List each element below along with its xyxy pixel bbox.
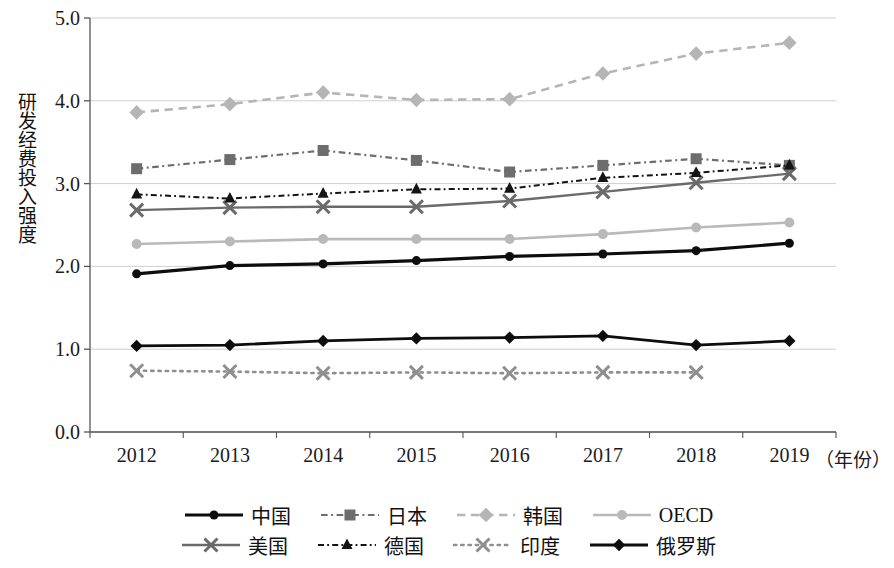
- legend-item-美国[interactable]: 美国: [178, 531, 288, 560]
- data-point-marker: [318, 145, 329, 156]
- series-line: [137, 165, 790, 198]
- data-point-marker: [317, 335, 329, 347]
- y-tick-label: 5.0: [32, 7, 80, 30]
- data-point-marker: [131, 163, 142, 174]
- data-point-marker: [410, 332, 422, 344]
- legend-item-德国[interactable]: 德国: [314, 531, 424, 560]
- data-point-marker: [613, 539, 625, 551]
- plot-area: [0, 0, 894, 500]
- legend-item-日本[interactable]: 日本: [317, 501, 427, 530]
- data-point-marker: [209, 511, 218, 520]
- data-point-marker: [224, 192, 235, 203]
- legend-label: 德国: [384, 531, 424, 560]
- data-point-marker: [597, 160, 608, 171]
- legend-item-印度[interactable]: 印度: [450, 531, 560, 560]
- data-point-marker: [503, 331, 515, 343]
- legend-label: OECD: [659, 504, 713, 527]
- data-point-marker: [225, 237, 235, 247]
- data-point-marker: [689, 46, 704, 61]
- y-tick-label: 3.0: [32, 173, 80, 196]
- data-point-marker: [130, 340, 142, 352]
- legend-label: 韩国: [523, 501, 563, 530]
- legend-marker-x-icon: [450, 533, 516, 557]
- legend-item-OECD[interactable]: OECD: [589, 503, 713, 527]
- data-point-marker: [224, 154, 235, 165]
- data-point-marker: [318, 234, 328, 244]
- x-tick-label: 2013: [190, 444, 270, 467]
- data-point-marker: [502, 92, 517, 107]
- y-tick-label: 0.0: [32, 421, 80, 444]
- legend-label: 日本: [387, 501, 427, 530]
- data-point-marker: [691, 222, 701, 232]
- data-point-marker: [342, 538, 353, 549]
- legend-item-俄罗斯[interactable]: 俄罗斯: [586, 531, 716, 560]
- y-tick-label: 1.0: [32, 338, 80, 361]
- y-tick-label: 2.0: [32, 255, 80, 278]
- legend-label: 中国: [251, 501, 291, 530]
- data-point-marker: [316, 85, 331, 100]
- legend-label: 印度: [520, 531, 560, 560]
- data-point-marker: [504, 167, 515, 178]
- series-印度: [130, 364, 703, 379]
- data-point-marker: [783, 335, 795, 347]
- legend-row: 中国日本韩国OECD: [0, 500, 894, 530]
- data-point-marker: [223, 97, 238, 112]
- legend-label: 俄罗斯: [656, 531, 716, 560]
- y-tick-label: 4.0: [32, 90, 80, 113]
- data-point-marker: [598, 249, 607, 258]
- data-point-marker: [411, 183, 422, 194]
- data-point-marker: [782, 36, 797, 51]
- data-point-marker: [478, 508, 493, 523]
- series-韩国: [129, 36, 796, 120]
- legend-marker-diamond-icon: [586, 533, 652, 557]
- data-point-marker: [409, 93, 424, 108]
- x-tick-label: 2015: [376, 444, 456, 467]
- legend-marker-x-icon: [178, 533, 244, 557]
- legend-marker-triangle-icon: [314, 533, 380, 557]
- data-point-marker: [131, 188, 142, 199]
- chart-container: 研发经费投入强度 0.01.02.03.04.05.0 201220132014…: [0, 0, 894, 568]
- data-point-marker: [597, 330, 609, 342]
- data-point-marker: [318, 187, 329, 198]
- data-point-marker: [132, 239, 142, 249]
- legend-item-韩国[interactable]: 韩国: [453, 501, 563, 530]
- series-line: [137, 243, 790, 274]
- series-OECD: [132, 218, 795, 250]
- x-tick-label: 2016: [470, 444, 550, 467]
- data-point-marker: [598, 229, 608, 239]
- data-point-marker: [784, 218, 794, 228]
- legend-row: 美国德国印度俄罗斯: [0, 530, 894, 560]
- x-tick-label: 2017: [563, 444, 643, 467]
- legend-marker-circle-icon: [181, 503, 247, 527]
- data-point-marker: [344, 510, 355, 521]
- legend-marker-square-icon: [317, 503, 383, 527]
- data-point-marker: [411, 234, 421, 244]
- data-point-marker: [505, 252, 514, 261]
- x-tick-label: 2014: [283, 444, 363, 467]
- data-point-marker: [617, 510, 627, 520]
- data-point-marker: [691, 153, 702, 164]
- x-tick-label: 2018: [656, 444, 736, 467]
- data-point-marker: [225, 261, 234, 270]
- data-point-marker: [130, 364, 143, 377]
- legend-item-中国[interactable]: 中国: [181, 501, 291, 530]
- x-tick-label: 2012: [97, 444, 177, 467]
- data-point-marker: [505, 234, 515, 244]
- data-point-marker: [597, 171, 608, 182]
- chart-legend: 中国日本韩国OECD 美国德国印度俄罗斯: [0, 500, 894, 560]
- data-point-marker: [411, 155, 422, 166]
- legend-marker-circle-icon: [589, 503, 655, 527]
- data-point-marker: [412, 256, 421, 265]
- data-point-marker: [785, 239, 794, 248]
- data-point-marker: [692, 246, 701, 255]
- x-axis-unit-label: （年份）: [815, 445, 891, 472]
- legend-marker-diamond-icon: [453, 503, 519, 527]
- data-point-marker: [596, 66, 611, 81]
- data-point-marker: [319, 259, 328, 268]
- data-point-marker: [132, 269, 141, 278]
- legend-label: 美国: [248, 531, 288, 560]
- data-point-marker: [129, 105, 144, 120]
